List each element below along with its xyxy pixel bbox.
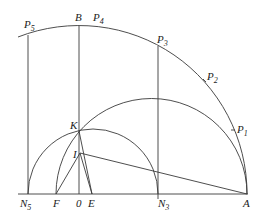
large-arc xyxy=(18,26,247,194)
label-E: E xyxy=(87,197,95,209)
diagram-canvas: P5 B P4 P3 P2 P1 K I N5 F 0 E N3 A xyxy=(0,0,264,223)
segment-I-A xyxy=(80,153,247,194)
label-A: A xyxy=(242,197,250,209)
label-P4: P4 xyxy=(92,11,104,26)
semicircle-N5N3 xyxy=(28,129,158,194)
label-P5: P5 xyxy=(23,18,35,33)
label-N3: N3 xyxy=(157,197,169,212)
geometry-diagram: P5 B P4 P3 P2 P1 K I N5 F 0 E N3 A xyxy=(0,0,264,223)
segment-K-E xyxy=(79,131,92,194)
label-P3: P3 xyxy=(156,33,168,48)
segment-I-E xyxy=(80,153,92,194)
semicircle-FA xyxy=(56,98,247,194)
label-O: 0 xyxy=(76,197,82,209)
label-N5: N5 xyxy=(19,197,31,212)
label-P2: P2 xyxy=(206,70,218,85)
label-K: K xyxy=(69,119,78,131)
label-F: F xyxy=(52,197,60,209)
label-B: B xyxy=(75,11,82,23)
label-P1: P1 xyxy=(236,123,248,138)
